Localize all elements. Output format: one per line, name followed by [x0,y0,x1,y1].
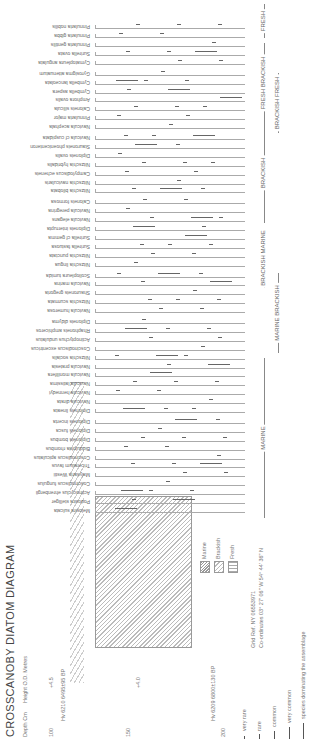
frequency-bar [141,282,145,283]
frequency-bar [142,162,146,163]
species-column [95,221,245,231]
species-column [95,494,245,504]
species-label: Navicula elegans [52,217,90,223]
frequency-bar [115,355,119,356]
species-label: Diploneis incerta [53,419,90,425]
group-brackish-marine: BRACKISH MARINE [264,228,275,288]
species-label: Triceratium favus [52,464,90,470]
species-label: Pinnularia gentilis [51,42,90,48]
species-label: Coscinodiscus fungulus [37,481,90,487]
frequency-bar [191,217,213,218]
depth-tick-150: 150 [125,728,131,737]
frequency-bar [152,135,156,136]
frequency-bar [223,437,227,438]
frequency-bar [158,273,180,274]
species-column [95,268,245,278]
frequency-bar [193,290,197,291]
frequency-bar [165,446,169,447]
species-column [95,414,245,424]
lithology-column [95,496,192,648]
frequency-bar [158,428,162,429]
frequency-bar [125,171,129,172]
species-label: Caloneis formosa [51,199,90,205]
frequency-bar [207,328,211,329]
species-label: Diploneis interrupta [47,226,90,232]
fresh-swatch [228,561,238,573]
grid-reference: Grid Ref. NY 06553971 [250,591,256,648]
species-label: Shauroneis gregoria [45,290,90,296]
legend-very-common-line [289,727,290,739]
frequency-bar [182,437,186,438]
frequency-bar [124,135,128,136]
frequency-bar [136,24,140,25]
species-label: Malysaria Westii [54,472,90,478]
species-column [95,359,245,369]
species-column [95,239,245,249]
frequency-bar [176,299,180,300]
frequency-bar [115,508,137,509]
species-column [95,230,245,240]
frequency-bar [144,80,148,81]
frequency-bar [210,282,232,283]
frequency-bar [212,42,216,43]
frequency-bar [177,180,181,181]
species-label: Rhaphoneis amphiceros [36,328,90,334]
species-column [95,37,245,47]
frequency-bar [164,408,168,409]
species-label: Cymbella lanceolata [45,80,90,86]
height-tick-40: +4.0 [135,677,141,688]
frequency-bar [131,464,135,465]
species-column [95,285,245,295]
species-label: Pinnularia major [54,115,90,121]
frequency-bar [167,51,171,52]
species-label: Surirella cf gemma [48,235,90,241]
legend-fresh: Fresh [229,545,235,559]
species-column [95,257,245,267]
species-column [95,157,245,167]
species-column [95,166,245,176]
species-column [95,323,245,333]
frequency-bar [157,390,161,391]
frequency-bar [183,472,187,473]
species-label: Navicula monilifera [48,373,90,379]
species-label: Navicula pratesia [52,364,90,370]
species-column [95,314,245,324]
species-label: Stauroneis phoenicenteron [30,144,90,150]
species-label: Surirella ovata [58,51,90,57]
species-column [95,203,245,213]
species-label: Pinnularia nobilis [52,24,90,30]
species-label: Nitzschia hybridalis [47,162,90,168]
group-marine-brackish: MARINE BRACKISH [278,273,289,353]
species-label: Nitzschia punctata [49,253,90,259]
frequency-bar [218,24,222,25]
group-brackish-fresh: BRACKISH FRESH [278,73,289,133]
species-column [95,212,245,222]
species-label: Diploneis didyma [52,319,90,325]
species-label: Diploneis bombus [50,437,90,443]
frequency-bar [209,244,213,245]
species-label: Navicula dirata [57,399,90,405]
species-label: Navicula hennedyi [49,390,90,396]
species-column [95,294,245,304]
species-column [95,467,245,477]
frequency-bar [168,89,190,90]
species-label: Nitzschia lingua [55,262,90,268]
frequency-bar [119,33,123,34]
frequency-bar [160,33,164,34]
frequency-bar [167,364,171,365]
species-label: Navicula humerosa [47,308,90,314]
legend-very-common: very common [286,690,292,723]
frequency-bar [224,472,228,473]
species-column [95,503,245,513]
legend-rare: rare [256,721,262,731]
species-column [95,385,245,395]
species-column [95,175,245,185]
frequency-bar [132,189,136,190]
frequency-bar [217,455,221,456]
species-label: Navicula cf cuspidata [43,135,90,141]
frequency-bar [192,253,196,254]
legend-common-line [274,731,275,739]
legend-brackish: Brackish [215,538,221,559]
species-column [95,139,245,149]
species-column [95,101,245,111]
